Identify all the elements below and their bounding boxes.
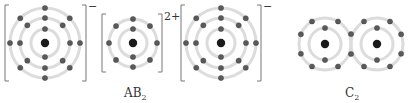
electron-dot (130, 64, 135, 69)
electron-dot (361, 64, 366, 69)
electron-dot (7, 40, 12, 45)
label-ionic-sub: 2 (141, 93, 146, 102)
electron-dot (361, 19, 366, 24)
label-covalent-molecule: C2 (345, 86, 359, 102)
bracket-left (102, 14, 106, 72)
electron-dot (335, 64, 340, 69)
electron-dot (253, 40, 258, 45)
electron-dot (42, 26, 47, 31)
electron-dot (183, 40, 188, 45)
electron-dot (309, 64, 314, 69)
electron-dot (60, 23, 65, 28)
electron-dot (67, 65, 72, 70)
electron-dot (322, 57, 327, 62)
electron-dot (106, 40, 111, 45)
electron-dot (243, 40, 248, 45)
electron-dot (201, 23, 206, 28)
electron-dot (42, 5, 47, 10)
charge-left-anion: − (88, 1, 97, 12)
electron-dot (387, 19, 392, 24)
electron-dot (387, 64, 392, 69)
electron-dot (194, 65, 199, 70)
nucleus (129, 39, 137, 47)
electron-dot (25, 23, 30, 28)
electron-dot (130, 54, 135, 59)
electron-dot (130, 16, 135, 21)
electron-dot (298, 32, 303, 37)
electron-dot (374, 25, 379, 30)
electron-dot (147, 57, 152, 62)
electron-dot (201, 58, 206, 63)
electron-dot (42, 15, 47, 20)
electron-dot (218, 5, 223, 10)
electron-dot (113, 23, 118, 28)
electron-dot (193, 40, 198, 45)
label-covalent-sub: 2 (354, 93, 359, 102)
electron-dot (298, 51, 303, 56)
electron-dot (236, 23, 241, 28)
electron-dot (154, 40, 159, 45)
electron-dot (348, 51, 353, 56)
electron-dot (218, 26, 223, 31)
nucleus (41, 39, 49, 47)
nucleus (217, 39, 225, 47)
electron-dot (218, 65, 223, 70)
nucleus (373, 40, 381, 48)
electron-dot (218, 75, 223, 80)
electron-dot (218, 54, 223, 59)
charge-right-anion: − (263, 1, 272, 12)
electron-dot (243, 65, 248, 70)
electron-dot (243, 16, 248, 21)
electron-dot (42, 75, 47, 80)
nucleus (321, 40, 329, 48)
electron-dot (42, 65, 47, 70)
label-ionic-base: AB (124, 86, 141, 100)
electron-dot (77, 40, 82, 45)
electron-dot (194, 16, 199, 21)
electron-dot (147, 23, 152, 28)
electron-dot (399, 32, 404, 37)
electron-dot (25, 58, 30, 63)
label-covalent-base: C (345, 86, 354, 100)
electron-dot (60, 58, 65, 63)
electron-dot (67, 40, 72, 45)
electron-dot (113, 57, 118, 62)
electron-dot (17, 40, 22, 45)
electron-dot (374, 57, 379, 62)
electron-dot (130, 26, 135, 31)
electron-dot (399, 51, 404, 56)
electron-dot (322, 25, 327, 30)
electron-dot (218, 15, 223, 20)
electron-dot (236, 58, 241, 63)
electron-dot (348, 31, 353, 36)
electron-dot (335, 19, 340, 24)
charge-cation: 2+ (164, 11, 180, 22)
electron-dot (309, 19, 314, 24)
electron-dot (18, 16, 23, 21)
label-ionic-compound: AB2 (124, 86, 147, 102)
electron-dot (67, 16, 72, 21)
electron-dot (18, 65, 23, 70)
electron-dot (42, 54, 47, 59)
